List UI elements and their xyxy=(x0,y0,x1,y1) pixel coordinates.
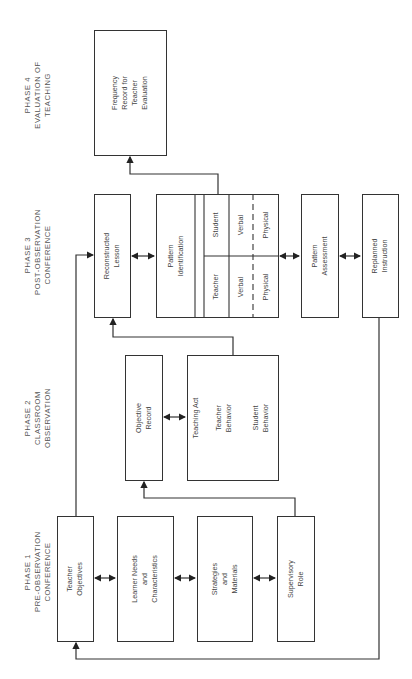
text-line: Pattern xyxy=(166,206,176,306)
learner-needs-label: Learner Needs and Characteristics xyxy=(130,529,160,629)
pattern-assessment-label: Pattern Assessment xyxy=(310,206,330,306)
objective-record-label: Objective Record xyxy=(134,368,154,468)
grid-student-label: Student xyxy=(211,195,221,255)
text-line: Role xyxy=(296,529,306,629)
text-line: and xyxy=(140,529,150,629)
text-line: Student xyxy=(251,388,261,448)
text-line: Teacher xyxy=(65,529,75,629)
grid-student-verbal-label: Verbal xyxy=(236,195,246,255)
teacher-objectives-label: Teacher Objectives xyxy=(65,529,85,629)
student-behavior-label: Student Behavior xyxy=(251,388,271,448)
teacher-behavior-label: Teacher Behavior xyxy=(214,388,234,448)
text-line: Behavior xyxy=(224,388,234,448)
text-line: Replanned xyxy=(370,206,380,306)
text-line: Supervisory xyxy=(286,529,296,629)
grid-teacher-physical-label: Physical xyxy=(261,257,271,317)
text-line: Identification xyxy=(176,206,186,306)
text-line: Objective xyxy=(134,368,144,468)
text-line: and xyxy=(220,529,230,629)
text-line: Record xyxy=(144,368,154,468)
text-line: Instruction xyxy=(380,206,390,306)
text-line: Strategies xyxy=(210,529,220,629)
text-line: Behavior xyxy=(261,388,271,448)
replanned-instruction-label: Replanned Instruction xyxy=(370,206,390,306)
text-line: Materials xyxy=(230,529,240,629)
grid-student-physical-label: Physical xyxy=(261,195,271,255)
text-line: Characteristics xyxy=(150,529,160,629)
grid-teacher-verbal-label: Verbal xyxy=(236,257,246,317)
text-line: Objectives xyxy=(75,529,85,629)
text-line: Teacher xyxy=(214,388,224,448)
text-line: Assessment xyxy=(320,206,330,306)
text-line: Learner Needs xyxy=(130,529,140,629)
supervisory-role-label: Supervisory Role xyxy=(286,529,306,629)
pattern-identification-label: Pattern Identification xyxy=(166,206,186,306)
teaching-act-label: Teaching Act xyxy=(191,378,201,458)
strategies-materials-label: Strategies and Materials xyxy=(210,529,240,629)
text-line: Pattern xyxy=(310,206,320,306)
grid-teacher-label: Teacher xyxy=(211,257,221,317)
